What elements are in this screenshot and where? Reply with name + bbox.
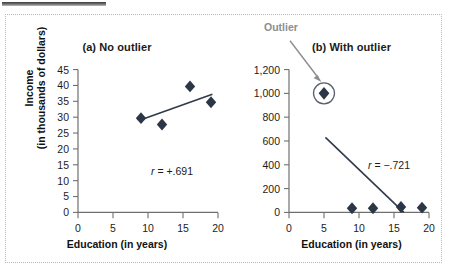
y-ticklabel: 0: [63, 207, 69, 218]
panel-a-plot: 0 5 10 15 20 25 30 35 40 45 0 5: [6, 15, 228, 262]
panel-a-x-ticklabels: 0 5 10 15 20: [75, 223, 224, 234]
y-ticklabel: 400: [263, 160, 281, 171]
y-ticklabel: 800: [263, 112, 281, 123]
x-ticklabel: 0: [286, 223, 292, 234]
x-ticklabel: 5: [110, 223, 116, 234]
r-value: = +.691: [157, 165, 193, 177]
chart-panel-with-outlier: (b) With outlier Outlier 0 200 400 600: [228, 15, 443, 262]
r-value: = −.721: [374, 159, 410, 171]
chart-panel-no-outlier: (a) No outlier Income (in thousands of d…: [6, 15, 228, 262]
x-ticklabel: 15: [177, 223, 189, 234]
decorative-top-rule: [2, 2, 106, 6]
x-ticklabel: 15: [388, 223, 400, 234]
y-ticklabel: 45: [57, 65, 69, 76]
data-point: [206, 96, 216, 108]
panel-b-y-ticks: [284, 70, 289, 213]
panel-a-y-ticks: [73, 70, 78, 213]
panel-a-data-points: [136, 80, 216, 130]
y-ticklabel: 1,200: [254, 65, 280, 76]
outlier-data-point: [319, 87, 330, 100]
data-point: [185, 80, 195, 92]
y-ticklabel: 10: [57, 176, 69, 187]
data-point: [157, 119, 167, 131]
panel-a-x-ticks: [78, 212, 218, 218]
data-point: [136, 112, 146, 124]
y-ticklabel: 25: [57, 128, 69, 139]
x-ticklabel: 10: [142, 223, 154, 234]
x-ticklabel: 10: [353, 223, 365, 234]
y-ticklabel: 40: [57, 80, 69, 91]
panel-b-x-ticks: [289, 212, 429, 218]
y-ticklabel: 200: [263, 184, 281, 195]
panel-a-correlation-label: r = +.691: [151, 165, 193, 177]
y-ticklabel: 1,000: [254, 88, 280, 99]
panel-b-x-axis-title: Education (in years): [244, 238, 450, 250]
figure-frame: (a) No outlier Income (in thousands of d…: [5, 14, 442, 263]
r-symbol: r: [368, 159, 372, 171]
panel-b-plot: 0 200 400 600 800 1,000 1,200 0 5 10 15: [228, 15, 443, 262]
x-ticklabel: 20: [212, 223, 224, 234]
y-ticklabel: 15: [57, 160, 69, 171]
panel-a-trendline: [141, 94, 212, 119]
outlier-arrow-head: [314, 75, 322, 82]
panel-a-y-ticklabels: 0 5 10 15 20 25 30 35 40 45: [57, 65, 69, 219]
x-ticklabel: 20: [423, 223, 435, 234]
panel-b-y-ticklabels: 0 200 400 600 800 1,000 1,200: [254, 65, 280, 219]
y-ticklabel: 5: [63, 192, 69, 203]
y-ticklabel: 20: [57, 144, 69, 155]
y-ticklabel: 35: [57, 96, 69, 107]
panel-b-correlation-label: r = −.721: [368, 159, 410, 171]
panel-b-x-ticklabels: 0 5 10 15 20: [286, 223, 435, 234]
outlier-arrow-line: [290, 41, 318, 78]
x-ticklabel: 0: [75, 223, 81, 234]
data-point: [396, 201, 406, 213]
x-ticklabel: 5: [321, 223, 327, 234]
y-ticklabel: 30: [57, 112, 69, 123]
r-symbol: r: [151, 165, 155, 177]
panel-b-trendline: [325, 137, 403, 212]
panel-a-x-axis-title: Education (in years): [6, 238, 228, 250]
y-ticklabel: 600: [263, 136, 281, 147]
y-ticklabel: 0: [274, 207, 280, 218]
